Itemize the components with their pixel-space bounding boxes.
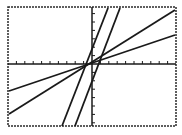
calculator-graph-screen (0, 0, 182, 135)
graph-plot (0, 0, 182, 135)
